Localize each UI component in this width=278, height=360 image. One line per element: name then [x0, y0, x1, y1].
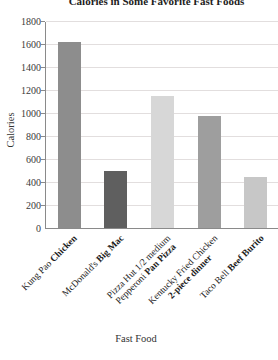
x-label-text: McDonald's: [61, 257, 102, 298]
x-label-line: McDonald's Big Mac: [61, 233, 126, 298]
plot-area: [45, 22, 278, 229]
x-label-text: Kentucky Fried Chicken: [146, 233, 219, 306]
x-label-text: Kung Pao: [20, 257, 55, 292]
chart-title: Calories in Some Favorite Fast Foods: [40, 0, 273, 7]
x-label-text: Pizza Hut 1/2 medium: [105, 233, 172, 300]
x-label-line: Pepperoni Pan Pizza: [112, 240, 179, 307]
gridline: [46, 90, 278, 91]
y-tick-label: 600: [26, 154, 41, 166]
y-tick-label: 1800: [21, 16, 41, 28]
x-category-label: Kentucky Fried Chicken2-piece dinner: [146, 233, 226, 313]
y-tick-label: 1600: [21, 39, 41, 51]
gridline: [46, 44, 278, 45]
x-category-label: Pizza Hut 1/2 mediumPepperoni Pan Pizza: [105, 233, 179, 307]
x-axis-title: Fast Food: [0, 333, 272, 344]
x-label-text: Pepperoni: [114, 270, 150, 306]
bar: [104, 171, 127, 229]
x-label-line: Taco Bell Beef Burito: [198, 233, 266, 301]
bar: [198, 116, 221, 228]
bar: [58, 42, 81, 228]
bar-chart: Calories in Some Favorite Fast Foods Cal…: [0, 0, 278, 360]
x-label-bold-text: Chicken: [48, 233, 79, 264]
x-label-line: 2-piece dinner: [153, 240, 226, 313]
y-tick-label: 0: [36, 223, 41, 235]
y-tick-label: 400: [26, 177, 41, 189]
y-axis-title: Calories: [5, 113, 16, 148]
y-tick-label: 800: [26, 131, 41, 143]
x-category-label: McDonald's Big Mac: [61, 233, 126, 298]
bar: [244, 177, 267, 228]
y-tick-label: 1400: [21, 62, 41, 74]
x-label-bold-text: Beef Burito: [226, 233, 266, 273]
bar: [151, 96, 174, 228]
x-label-line: Kentucky Fried Chicken: [146, 233, 219, 306]
y-tick-label: 200: [26, 200, 41, 212]
x-label-bold-text: Big Mac: [95, 233, 126, 264]
x-category-label: Taco Bell Beef Burito: [198, 233, 266, 301]
x-label-bold-text: Pan Pizza: [143, 242, 178, 277]
x-label-bold-text: 2-piece dinner: [166, 253, 214, 301]
y-tick-label: 1000: [21, 108, 41, 120]
y-tick-label: 1200: [21, 85, 41, 97]
x-label-text: Taco Bell: [198, 266, 233, 301]
x-category-label: Kung Pao Chicken: [20, 233, 79, 292]
x-label-line: Kung Pao Chicken: [20, 233, 79, 292]
gridline: [46, 21, 278, 22]
gridline: [46, 67, 278, 68]
x-label-line: Pizza Hut 1/2 medium: [105, 233, 172, 300]
